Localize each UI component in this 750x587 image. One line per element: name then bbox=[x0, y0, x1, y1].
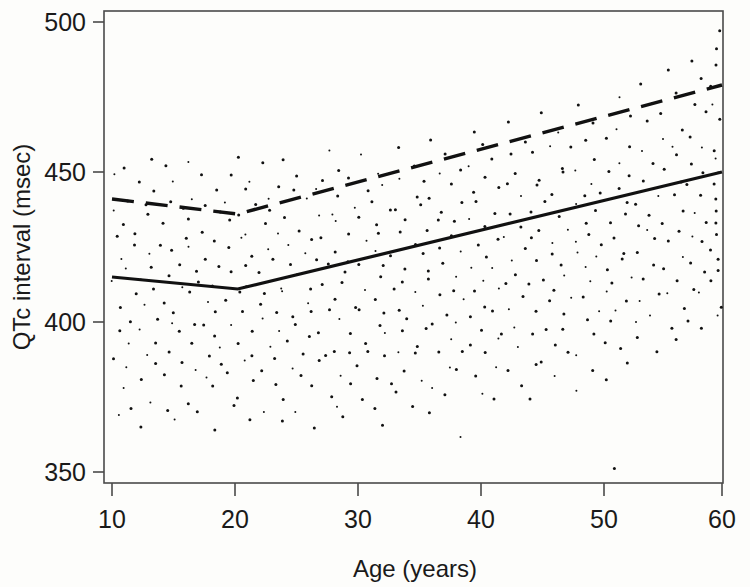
scatter-point bbox=[639, 83, 642, 86]
scatter-point bbox=[333, 350, 336, 353]
scatter-point bbox=[274, 383, 277, 386]
scatter-point bbox=[666, 292, 668, 294]
scatter-point bbox=[678, 230, 681, 233]
scatter-point bbox=[613, 467, 616, 470]
scatter-point bbox=[423, 180, 426, 183]
scatter-point bbox=[341, 281, 344, 284]
scatter-point bbox=[163, 302, 166, 305]
scatter-point bbox=[426, 229, 429, 232]
scatter-point bbox=[681, 128, 684, 131]
scatter-point bbox=[254, 203, 257, 206]
scatter-point bbox=[445, 313, 448, 316]
scatter-point bbox=[193, 323, 196, 326]
scatter-point bbox=[282, 158, 285, 161]
scatter-point bbox=[394, 208, 397, 211]
scatter-point bbox=[551, 253, 554, 256]
scatter-point bbox=[626, 201, 629, 204]
scatter-point bbox=[150, 158, 153, 161]
scatter-point bbox=[615, 309, 617, 311]
scatter-point bbox=[139, 425, 142, 428]
scatter-point bbox=[414, 291, 416, 293]
scatter-point bbox=[156, 318, 159, 321]
scatter-point bbox=[324, 354, 327, 357]
scatter-point bbox=[166, 409, 169, 412]
scatter-point bbox=[116, 235, 119, 238]
x-axis-title: Age (years) bbox=[353, 555, 477, 582]
scatter-point bbox=[405, 317, 408, 320]
scatter-point bbox=[514, 273, 517, 276]
scatter-point bbox=[562, 312, 565, 315]
scatter-point bbox=[522, 295, 525, 298]
y-tick-label-400: 400 bbox=[44, 308, 86, 336]
scatter-point bbox=[536, 184, 539, 187]
scatter-point bbox=[268, 209, 271, 212]
scatter-point bbox=[531, 332, 534, 335]
scatter-point bbox=[244, 234, 246, 236]
scatter-point bbox=[619, 96, 621, 98]
scatter-point bbox=[144, 304, 146, 306]
scatter-point bbox=[574, 170, 576, 172]
scatter-point bbox=[509, 212, 512, 215]
scatter-point bbox=[687, 319, 690, 322]
scatter-point bbox=[224, 201, 226, 203]
scatter-point bbox=[561, 167, 564, 170]
scatter-point bbox=[715, 233, 718, 236]
scatter-point bbox=[172, 311, 175, 314]
x-tick-label-10: 10 bbox=[98, 505, 126, 533]
scatter-point bbox=[112, 357, 115, 360]
scatter-point bbox=[594, 209, 597, 212]
scatter-point bbox=[437, 351, 440, 354]
scatter-point bbox=[416, 195, 419, 198]
scatter-point bbox=[414, 352, 417, 355]
scatter-point bbox=[455, 276, 457, 278]
scatter-point bbox=[561, 328, 564, 331]
scatter-point bbox=[475, 200, 478, 203]
scatter-point bbox=[135, 292, 138, 295]
scatter-point bbox=[657, 195, 659, 197]
scatter-point bbox=[282, 398, 285, 401]
scatter-point bbox=[315, 188, 317, 190]
scatter-point bbox=[713, 149, 716, 152]
scatter-point bbox=[267, 248, 269, 250]
scatter-point bbox=[139, 328, 141, 330]
scatter-point bbox=[164, 164, 167, 167]
scatter-point bbox=[584, 139, 587, 142]
scatter-point bbox=[663, 168, 666, 171]
scatter-point bbox=[514, 172, 517, 175]
scatter-point bbox=[469, 315, 472, 318]
scatter-point bbox=[470, 267, 472, 269]
scatter-point bbox=[286, 340, 289, 343]
scatter-point bbox=[618, 187, 621, 190]
scatter-point bbox=[524, 141, 527, 144]
scatter-point bbox=[250, 354, 253, 357]
scatter-point bbox=[461, 350, 464, 353]
scatter-point bbox=[690, 59, 693, 62]
scatter-point bbox=[349, 332, 352, 335]
scatter-point bbox=[590, 183, 592, 185]
scatter-point bbox=[715, 47, 718, 50]
scatter-point bbox=[335, 220, 337, 222]
scatter-point bbox=[717, 258, 720, 261]
scatter-point bbox=[382, 264, 385, 267]
scatter-point bbox=[237, 342, 240, 345]
scatter-point bbox=[321, 283, 324, 286]
scatter-point bbox=[490, 158, 493, 161]
scatter-point bbox=[549, 145, 551, 147]
scatter-point bbox=[250, 255, 253, 258]
scatter-point bbox=[517, 346, 519, 348]
scatter-point bbox=[582, 296, 585, 299]
scatter-point bbox=[171, 322, 173, 324]
scatter-point bbox=[628, 145, 631, 148]
scatter-point bbox=[714, 198, 717, 201]
scatter-point bbox=[367, 189, 370, 192]
scatter-point bbox=[214, 310, 217, 313]
scatter-point bbox=[655, 350, 658, 353]
scatter-point bbox=[381, 424, 384, 427]
scatter-point bbox=[455, 368, 458, 371]
scatter-point bbox=[291, 315, 294, 318]
scatter-point bbox=[168, 274, 171, 277]
scatter-point bbox=[152, 189, 155, 192]
x-axis-ticks bbox=[112, 483, 722, 496]
scatter-point bbox=[382, 312, 385, 315]
scatter-point bbox=[698, 292, 700, 294]
